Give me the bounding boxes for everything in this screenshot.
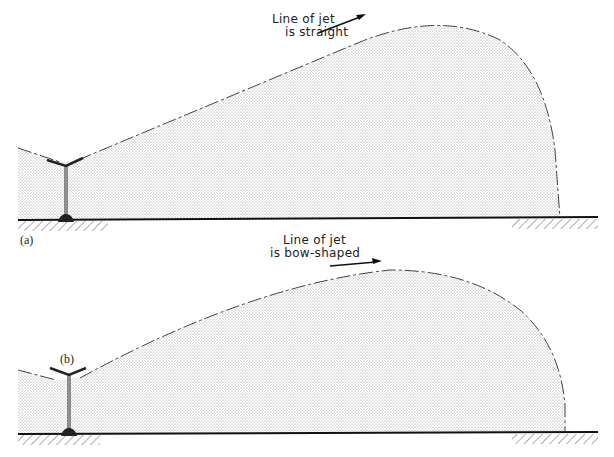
arrowhead-b bbox=[372, 258, 382, 264]
ground-hatch-right-a bbox=[512, 219, 598, 229]
annotation-b-line2: is bow-shaped bbox=[270, 247, 360, 260]
sprinkler-jet-diagram bbox=[0, 0, 614, 457]
caption-b: (b) bbox=[60, 352, 74, 367]
ground-hatch-left-a bbox=[18, 221, 108, 231]
jet-arrow-b bbox=[330, 262, 376, 266]
ground-hatch-left-b bbox=[18, 435, 100, 445]
panel-b bbox=[18, 258, 598, 445]
jet-area-b bbox=[18, 270, 565, 434]
arrowhead-a bbox=[356, 14, 366, 20]
panel-a bbox=[18, 14, 598, 231]
jet-area-a bbox=[18, 25, 560, 220]
ground-hatch-right-b bbox=[512, 434, 598, 444]
annotation-a-line2: is straight bbox=[285, 26, 348, 39]
caption-a: (a) bbox=[20, 233, 33, 248]
